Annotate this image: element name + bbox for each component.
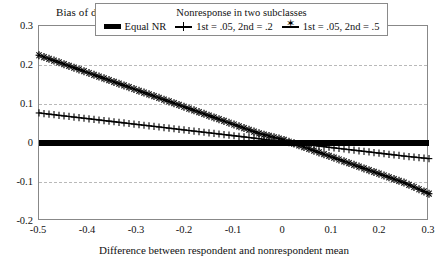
series-marker	[236, 133, 243, 140]
series-marker	[376, 170, 383, 178]
x-tick-label: -0.5	[18, 224, 58, 235]
x-tick-label: -0.2	[164, 224, 204, 235]
x-tick-label: 0.2	[359, 224, 399, 235]
series-marker	[141, 89, 148, 97]
series-marker	[61, 112, 68, 119]
series-marker	[106, 118, 113, 125]
series-marker	[361, 148, 368, 155]
series-marker	[96, 116, 103, 123]
x-axis-title: Difference between respondent and nonres…	[0, 244, 448, 256]
series-marker	[216, 130, 223, 137]
series-marker	[256, 129, 263, 137]
series-marker	[331, 154, 338, 162]
series-marker	[381, 150, 388, 157]
series-marker	[191, 106, 198, 114]
legend-item-label: Equal NR	[125, 20, 167, 33]
series-marker	[146, 90, 153, 98]
legend-item-second-02[interactable]: 1st = .05, 2nd = .2	[175, 20, 273, 33]
legend-item-second-05[interactable]: 1st = .05, 2nd = .5	[282, 20, 380, 33]
series-marker	[111, 118, 118, 125]
series-marker	[241, 133, 248, 140]
series-marker	[341, 157, 348, 165]
series-marker	[121, 119, 128, 126]
series-marker	[131, 120, 138, 127]
series-marker	[266, 132, 273, 140]
y-tick-label: 0.2	[0, 59, 33, 70]
series-marker	[81, 115, 88, 122]
x-tick-label: 0.1	[311, 224, 351, 235]
series-marker	[101, 117, 108, 124]
series-marker	[76, 65, 83, 73]
series-marker	[376, 150, 383, 157]
series-marker	[106, 76, 113, 84]
series-marker	[196, 108, 203, 116]
series-marker	[206, 129, 213, 136]
series-marker	[426, 190, 433, 198]
series-marker	[366, 148, 373, 155]
series-marker	[176, 126, 183, 133]
series-marker	[371, 168, 378, 176]
series-marker	[386, 173, 393, 181]
series-marker	[396, 152, 403, 159]
series-marker	[396, 177, 403, 185]
series-marker	[176, 101, 183, 109]
series-marker	[41, 110, 48, 117]
star-marker-icon	[282, 22, 299, 32]
series-marker	[351, 161, 358, 169]
series-marker	[151, 92, 158, 100]
series-marker	[251, 128, 258, 136]
series-marker	[86, 115, 93, 122]
series-marker	[371, 149, 378, 156]
series-marker	[391, 175, 398, 183]
series-marker	[226, 119, 233, 127]
series-marker	[321, 150, 328, 158]
series-marker	[126, 120, 133, 127]
series-marker	[181, 103, 188, 111]
series-marker	[276, 135, 283, 143]
series-marker	[191, 127, 198, 134]
series-marker	[56, 112, 63, 119]
series-marker	[46, 111, 53, 118]
series-marker	[71, 113, 78, 120]
series-marker	[391, 151, 398, 158]
series-marker	[181, 126, 188, 133]
x-tick-label: -0.3	[116, 224, 156, 235]
series-marker	[311, 147, 318, 155]
series-marker	[271, 133, 278, 141]
series-marker	[211, 113, 218, 121]
series-marker	[211, 130, 218, 137]
series-marker	[36, 51, 43, 59]
series-marker	[326, 152, 333, 160]
series-marker	[346, 146, 353, 153]
series-marker	[86, 69, 93, 77]
series-marker	[156, 94, 163, 102]
plus-marker-icon	[175, 22, 192, 32]
series-marker	[96, 73, 103, 81]
series-marker	[171, 99, 178, 107]
series-marker	[156, 123, 163, 130]
series-marker	[361, 164, 368, 172]
legend-item-equal-nr[interactable]: Equal NR	[104, 20, 167, 33]
series-marker	[66, 113, 73, 120]
series-marker	[226, 132, 233, 139]
series-marker	[241, 124, 248, 132]
series-marker	[161, 96, 168, 104]
series-marker	[381, 171, 388, 179]
series-marker	[261, 131, 268, 139]
series-marker	[121, 81, 128, 89]
series-marker	[306, 145, 313, 153]
chart-legend: Nonresponse in two subclasses Equal NR 1…	[95, 3, 388, 36]
series-marker	[91, 116, 98, 123]
x-tick-label: 0.3	[408, 224, 448, 235]
series-marker	[71, 64, 78, 72]
series-marker	[171, 125, 178, 132]
series-marker	[151, 123, 158, 130]
legend-item-label: 1st = .05, 2nd = .2	[196, 20, 273, 33]
series-marker	[216, 115, 223, 123]
series-marker	[91, 71, 98, 79]
series-marker	[51, 57, 58, 65]
series-marker	[296, 141, 303, 149]
series-marker	[166, 125, 173, 132]
series-marker	[201, 129, 208, 136]
series-marker	[146, 122, 153, 129]
